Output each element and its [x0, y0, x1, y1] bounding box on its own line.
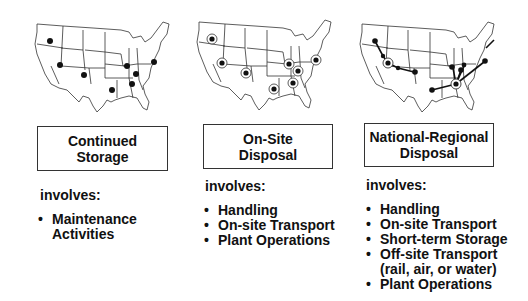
site-dot — [151, 59, 157, 65]
list-item: •Plant Operations — [204, 233, 335, 248]
ringed-site-icon — [241, 68, 251, 78]
site-dot — [81, 72, 87, 78]
us-outline-icon — [35, 22, 169, 112]
ringed-site-icon — [217, 58, 227, 68]
title-line: Storage — [76, 149, 128, 165]
title-line: On-Site — [243, 131, 293, 147]
title-line: Disposal — [239, 147, 297, 163]
site-dot — [462, 63, 467, 68]
site-dot — [133, 71, 139, 77]
bullet-icon: • — [366, 202, 371, 217]
list-item: •On-site Transport — [366, 217, 508, 232]
involves-label: involves: — [40, 187, 101, 203]
site-dot — [412, 69, 418, 75]
site-dot — [129, 81, 135, 87]
site-dot — [372, 38, 378, 44]
us-outline-icon — [360, 22, 494, 112]
bullet-icon: • — [366, 277, 371, 292]
ringed-site-icon — [293, 66, 303, 76]
list-item: •Handling — [366, 202, 508, 217]
bullet-icon: • — [204, 203, 209, 218]
route-line — [486, 40, 494, 48]
title-box-national-regional-disposal: National-Regional Disposal — [364, 123, 494, 167]
title-line: Continued — [68, 133, 137, 149]
activity-list: •Handling •On-site Transport •Short-term… — [366, 202, 508, 292]
title-line: National-Regional — [369, 129, 488, 145]
site-dot — [396, 66, 400, 70]
site-dot — [458, 67, 464, 73]
ringed-site-icon — [284, 59, 294, 69]
us-map-on-site-disposal — [195, 16, 337, 114]
title-box-on-site-disposal: On-Site Disposal — [203, 124, 333, 169]
site-dot — [47, 38, 53, 44]
site-dot — [429, 87, 435, 93]
list-item: • Maintenance Activities — [38, 212, 137, 242]
site-dot — [57, 62, 63, 68]
ringed-site-icon — [207, 34, 217, 44]
site-dot — [124, 63, 130, 69]
activity-list: • Maintenance Activities — [38, 212, 137, 242]
site-dot — [482, 58, 488, 64]
ringed-site-icon — [269, 84, 279, 94]
activity-list: •Handling •On-site Transport •Plant Oper… — [204, 203, 335, 248]
involves-label: involves: — [205, 178, 266, 194]
site-dot — [381, 54, 385, 58]
bullet-icon: • — [204, 233, 209, 248]
ringed-site-icon — [311, 55, 321, 65]
bullet-icon: • — [366, 247, 371, 262]
list-item: •Handling — [204, 203, 335, 218]
list-item: •Short-term Storage — [366, 232, 508, 247]
list-item: •Plant Operations — [366, 277, 508, 292]
regional-hub-icon — [383, 58, 393, 68]
bullet-icon: • — [366, 217, 371, 232]
site-dot — [109, 87, 115, 93]
regional-hub-icon — [451, 79, 461, 89]
bullet-icon: • — [204, 218, 209, 233]
bullet-icon: • — [366, 232, 371, 247]
list-item: •Off-site Transport(rail, air, or water) — [366, 247, 508, 277]
ringed-site-icon — [288, 78, 298, 88]
title-box-continued-storage: Continued Storage — [37, 126, 168, 171]
site-dot — [449, 64, 455, 70]
involves-label: involves: — [366, 177, 427, 193]
us-map-national-regional-disposal — [358, 18, 500, 116]
list-item: •On-site Transport — [204, 218, 335, 233]
title-line: Disposal — [400, 145, 458, 161]
bullet-icon: • — [38, 212, 43, 227]
us-map-continued-storage — [33, 18, 175, 116]
